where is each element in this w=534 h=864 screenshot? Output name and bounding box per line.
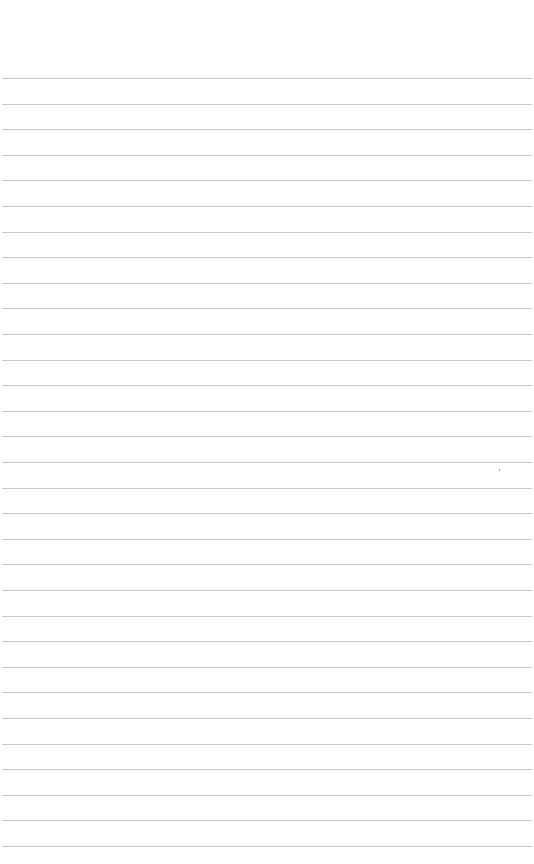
ruled-line	[2, 820, 532, 821]
ruled-line	[2, 257, 532, 258]
ruled-line	[2, 846, 532, 847]
ruled-line	[2, 769, 532, 770]
ruled-line	[2, 462, 532, 463]
ruled-line	[2, 667, 532, 668]
ruled-line	[2, 436, 532, 437]
ruled-line	[2, 692, 532, 693]
ruled-line	[2, 308, 532, 309]
ruled-line	[2, 104, 532, 105]
ruled-line	[2, 539, 532, 540]
ruled-line	[2, 129, 532, 130]
ruled-line	[2, 641, 532, 642]
ruled-line	[2, 334, 532, 335]
ruled-line	[2, 411, 532, 412]
ruled-line	[2, 616, 532, 617]
ruled-line	[2, 744, 532, 745]
ruled-line	[2, 78, 532, 79]
ruled-line	[2, 180, 532, 181]
ruled-paper-sheet	[0, 0, 534, 864]
paper-speck	[499, 469, 500, 471]
ruled-line	[2, 795, 532, 796]
ruled-line	[2, 513, 532, 514]
ruled-line	[2, 564, 532, 565]
ruled-line	[2, 155, 532, 156]
ruled-line	[2, 488, 532, 489]
ruled-line	[2, 283, 532, 284]
ruled-line	[2, 360, 532, 361]
ruled-line	[2, 718, 532, 719]
ruled-line	[2, 385, 532, 386]
ruled-line	[2, 590, 532, 591]
ruled-line	[2, 206, 532, 207]
ruled-line	[2, 232, 532, 233]
